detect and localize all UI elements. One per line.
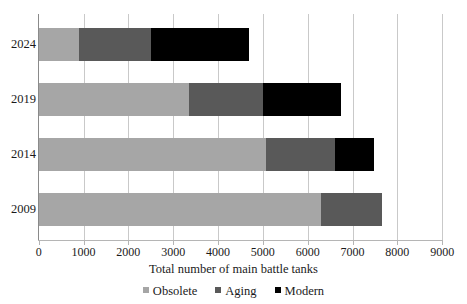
y-axis-label-text: 2024 <box>0 28 36 61</box>
x-axis-tick-label: 9000 <box>412 245 467 260</box>
stacked-bar-chart: 2024201920142009 01000200030004000500060… <box>0 0 467 304</box>
legend-item[interactable]: Modern <box>275 283 325 299</box>
legend-swatch-icon <box>215 287 221 293</box>
x-axis-title: Total number of main battle tanks <box>0 262 467 277</box>
bar-segment-modern <box>335 138 374 171</box>
bar-segment-aging <box>79 28 151 61</box>
legend-swatch-icon <box>275 287 281 293</box>
bar-segment-obsolete <box>39 138 267 171</box>
bar-segment-modern <box>263 83 341 116</box>
bar-segment-obsolete <box>39 83 189 116</box>
legend-label: Modern <box>285 284 325 298</box>
bar-group <box>0 28 467 61</box>
bar-segment-aging <box>266 138 334 171</box>
legend-label: Obsolete <box>153 284 197 298</box>
bar-segment-modern <box>151 28 249 61</box>
bar-segment-aging <box>189 83 263 116</box>
bar-segment-obsolete <box>39 193 321 226</box>
y-axis-label-text: 2009 <box>0 193 36 226</box>
bar-group <box>0 83 467 116</box>
legend-item[interactable]: Aging <box>215 283 256 299</box>
bar-segment-aging <box>321 193 382 226</box>
legend-label: Aging <box>225 284 256 298</box>
y-axis-label: 2024 <box>0 28 36 61</box>
y-axis-label-text: 2019 <box>0 83 36 116</box>
bar-segment-obsolete <box>39 28 79 61</box>
legend-swatch-icon <box>143 287 149 293</box>
bar-group <box>0 138 467 171</box>
y-axis-label-text: 2014 <box>0 138 36 171</box>
bar-group <box>0 193 467 226</box>
chart-legend: ObsoleteAgingModern <box>0 283 467 299</box>
legend-item[interactable]: Obsolete <box>143 283 197 299</box>
y-axis-label: 2019 <box>0 83 36 116</box>
y-axis-label: 2009 <box>0 193 36 226</box>
y-axis-label: 2014 <box>0 138 36 171</box>
